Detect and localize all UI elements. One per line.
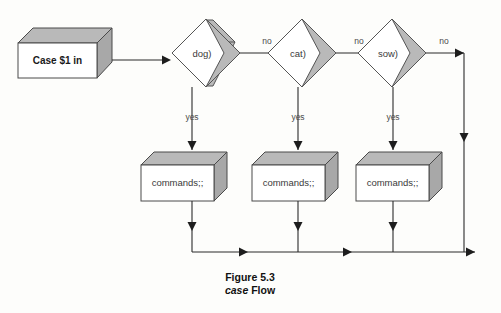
figure-container: Case $1 in dog) no cat) no sow) — [0, 0, 501, 313]
case-box-label: Case $1 in — [33, 55, 82, 66]
figure-caption-number: Figure 5.3 — [225, 271, 275, 283]
commands-box-2-top-face — [252, 152, 338, 165]
edge-label-no-3: no — [439, 36, 449, 46]
decision-dog: dog) — [172, 19, 240, 87]
merge-rail — [188, 201, 476, 257]
figure-caption-title: case Flow — [225, 284, 276, 296]
commands-box-3: commands;; — [356, 152, 442, 201]
case-statement-box: Case $1 in — [18, 28, 112, 78]
commands-box-3-top-face — [356, 152, 442, 165]
case-box-top-face — [18, 28, 112, 43]
commands-box-2-label: commands;; — [263, 177, 315, 188]
edge-start-to-decision-dog — [112, 56, 171, 65]
commands-box-1-top-face — [141, 152, 227, 165]
commands-box-1: commands;; — [141, 152, 227, 201]
edge-label-yes-1: yes — [185, 112, 198, 122]
commands-box-2: commands;; — [252, 152, 338, 201]
edge-sow-yes: yes — [386, 87, 399, 150]
decision-sow: sow) — [358, 19, 426, 87]
decision-cat-label: cat) — [290, 48, 306, 59]
edge-cat-yes: yes — [291, 87, 304, 150]
edge-dog-yes: yes — [185, 87, 198, 150]
figure-caption-title-rest: Flow — [248, 284, 276, 296]
decision-dog-label: dog) — [192, 48, 211, 59]
edge-label-yes-2: yes — [291, 112, 304, 122]
edge-sow-no-to-exit: no — [426, 36, 469, 252]
case-flow-diagram: Case $1 in dog) no cat) no sow) — [0, 0, 501, 313]
decision-sow-label: sow) — [378, 48, 398, 59]
figure-caption-title-italic: case — [225, 284, 249, 296]
commands-box-3-label: commands;; — [367, 177, 419, 188]
commands-box-1-label: commands;; — [152, 177, 204, 188]
edge-label-no-2: no — [354, 36, 364, 46]
edge-label-yes-3: yes — [386, 112, 399, 122]
edge-label-no-1: no — [262, 36, 272, 46]
decision-cat: cat) — [268, 19, 336, 87]
